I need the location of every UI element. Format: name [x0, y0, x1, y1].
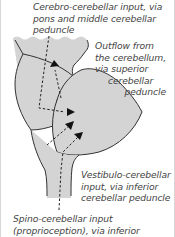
label-vestibulo-input: Vestibulo-cerebellar input, via inferior…: [81, 169, 171, 204]
label-spino-input: Spino-cerebellar input (proprioception),…: [13, 213, 140, 236]
label-cerebro-input: Cerebro-cerebellar input, via pons and m…: [33, 1, 162, 36]
label-outflow: Outflow from the cerebellum, via superio…: [95, 40, 166, 98]
diagram-frame: Cerebro-cerebellar input, via pons and m…: [0, 0, 175, 237]
